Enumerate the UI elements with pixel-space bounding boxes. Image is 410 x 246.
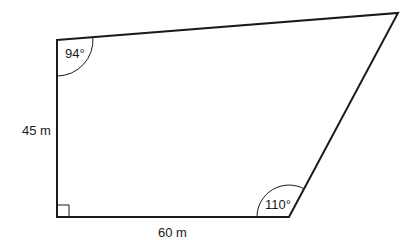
quadrilateral-diagram: 94° 110° 45 m 60 m [0,0,410,246]
right-angle-marker [57,205,69,217]
side-label-left: 45 m [22,123,51,138]
angle-label-top-left: 94° [65,46,85,61]
diagram-canvas: 94° 110° 45 m 60 m [0,0,410,246]
quadrilateral-outline [57,13,398,217]
angle-label-bottom-right: 110° [265,197,291,212]
side-label-bottom: 60 m [158,225,187,240]
